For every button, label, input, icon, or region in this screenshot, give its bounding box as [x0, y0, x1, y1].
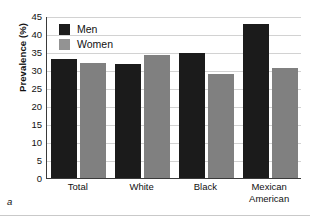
- x-tick-label: Total: [46, 181, 110, 193]
- chart-legend: Men Women: [59, 22, 113, 52]
- bar-mexican-american-men: [243, 24, 269, 178]
- y-axis-tick-labels: 051015202530354045: [24, 17, 42, 179]
- y-tick-label: 25: [24, 84, 42, 94]
- bar-black-men: [179, 53, 205, 178]
- legend-item-men: Men: [59, 22, 113, 37]
- bar-mexican-american-women: [272, 68, 298, 178]
- legend-item-women: Women: [59, 37, 113, 52]
- legend-swatch-women-icon: [59, 39, 70, 50]
- bottom-divider: [0, 215, 310, 216]
- x-axis-tick-labels: TotalWhiteBlackMexican American: [46, 181, 301, 213]
- bar-black-women: [208, 74, 234, 178]
- legend-swatch-men-icon: [59, 24, 70, 35]
- panel-letter: a: [7, 196, 12, 207]
- figure-panel: Prevalence (%) 051015202530354045 Men Wo…: [0, 0, 310, 219]
- plot-area: Men Women: [46, 17, 301, 179]
- y-tick-label: 40: [24, 30, 42, 40]
- x-tick-label: White: [110, 181, 174, 193]
- bar-total-women: [80, 63, 106, 178]
- y-tick-label: 5: [24, 156, 42, 166]
- y-tick-label: 35: [24, 48, 42, 58]
- x-tick-label: Mexican American: [237, 181, 301, 204]
- legend-label-men: Men: [77, 24, 97, 35]
- legend-label-women: Women: [77, 39, 113, 50]
- x-tick-label: Black: [174, 181, 238, 193]
- y-tick-label: 20: [24, 102, 42, 112]
- y-tick-label: 15: [24, 120, 42, 130]
- bar-white-men: [115, 64, 141, 178]
- y-tick-label: 30: [24, 66, 42, 76]
- y-tick-label: 10: [24, 138, 42, 148]
- bar-total-men: [51, 59, 77, 178]
- y-tick-label: 0: [24, 174, 42, 184]
- gridline: [47, 17, 301, 18]
- bar-white-women: [144, 55, 170, 178]
- y-tick-label: 45: [24, 12, 42, 22]
